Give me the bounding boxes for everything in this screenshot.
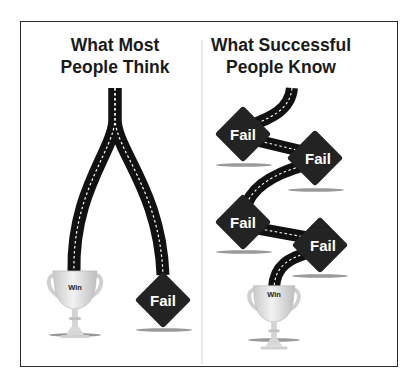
left-fail-label: Fail xyxy=(150,292,176,309)
diagram-art: Win Fail Fail Fail Fail Fail xyxy=(0,0,420,388)
right-fail-label-2: Fail xyxy=(305,150,331,167)
right-fail-label-3: Fail xyxy=(230,214,256,231)
right-fail-diamond-3: Fail xyxy=(215,194,272,254)
right-fail-diamond-4: Fail xyxy=(292,217,349,278)
left-trophy-label: Win xyxy=(68,283,82,292)
left-trophy-icon: Win xyxy=(49,271,102,338)
right-fail-diamond-2: Fail xyxy=(287,130,344,192)
right-trophy-icon: Win xyxy=(248,286,300,350)
left-roads xyxy=(74,88,163,275)
left-fail-diamond: Fail xyxy=(135,272,192,332)
right-fail-label-1: Fail xyxy=(230,126,256,143)
right-fail-label-4: Fail xyxy=(310,237,336,254)
right-trophy-label: Win xyxy=(267,290,281,299)
